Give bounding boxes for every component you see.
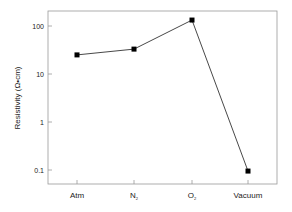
x-category-label: Atm bbox=[70, 191, 85, 200]
square-marker bbox=[132, 47, 137, 52]
plot-frame bbox=[48, 11, 277, 184]
data-markers bbox=[75, 18, 251, 174]
square-marker bbox=[246, 169, 251, 174]
y-tick-label: 10 bbox=[36, 71, 44, 78]
y-tick-label: 1 bbox=[40, 119, 44, 126]
x-axis-ticks: AtmN2O2Vacuum bbox=[70, 180, 263, 201]
x-category-label: Vacuum bbox=[234, 191, 263, 200]
y-axis-title: Resistivity (Ω•cm) bbox=[13, 66, 22, 129]
square-marker bbox=[75, 52, 80, 57]
square-marker bbox=[190, 18, 195, 23]
y-axis-ticks: 1001010.1 bbox=[32, 23, 52, 174]
x-category-label: N2 bbox=[130, 191, 139, 201]
series-line bbox=[77, 20, 248, 171]
y-tick-label: 100 bbox=[32, 23, 44, 30]
y-tick-label: 0.1 bbox=[34, 167, 44, 174]
resistivity-chart: 1001010.1 AtmN2O2Vacuum Resistivity (Ω•c… bbox=[0, 0, 292, 212]
x-category-label: O2 bbox=[188, 191, 197, 201]
